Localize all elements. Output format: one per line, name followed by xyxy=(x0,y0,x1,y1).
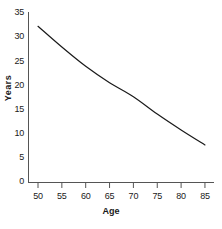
x-axis-tick-marks xyxy=(38,183,205,189)
x-axis-tick-label-75: 75 xyxy=(145,192,169,201)
x-axis-tick-label-80: 80 xyxy=(169,192,193,201)
y-axis-tick-label-30: 30 xyxy=(2,32,24,41)
axis-spines xyxy=(28,12,214,183)
x-axis-tick-label-70: 70 xyxy=(121,192,145,201)
y-axis-tick-label-5: 5 xyxy=(2,153,24,162)
x-axis-tick-label-65: 65 xyxy=(98,192,122,201)
y-axis-title: Years xyxy=(3,62,13,114)
x-axis-tick-label-85: 85 xyxy=(193,192,217,201)
y-axis-tick-label-0: 0 xyxy=(2,177,24,186)
y-axis-tick-label-35: 35 xyxy=(2,8,24,17)
x-axis-title: Age xyxy=(0,206,222,216)
x-axis-tick-label-60: 60 xyxy=(74,192,98,201)
x-axis-tick-label-55: 55 xyxy=(50,192,74,201)
x-axis-tick-label-50: 50 xyxy=(26,192,50,201)
data-line-series xyxy=(38,26,205,145)
y-axis-tick-label-10: 10 xyxy=(2,129,24,138)
chart-container: 05101520253035 5055606570758085 Years Ag… xyxy=(0,0,222,229)
